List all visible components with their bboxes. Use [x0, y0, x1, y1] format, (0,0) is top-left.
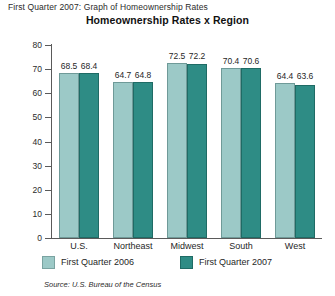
bar [79, 73, 99, 238]
legend-label: First Quarter 2007 [199, 258, 272, 267]
bar-pair [167, 45, 207, 238]
y-axis-tick-label: 70 [12, 65, 42, 74]
bar-value-label: 68.5 [59, 62, 79, 71]
bar-value-label: 72.5 [167, 52, 187, 61]
bar [221, 68, 241, 238]
bar-value-label: 70.6 [241, 57, 261, 66]
bar-value-label: 68.4 [79, 62, 99, 71]
y-axis-tick-label: 80 [12, 41, 42, 50]
x-axis-category-label: South [214, 242, 268, 251]
legend-swatch [180, 256, 193, 269]
x-axis-line [51, 238, 322, 239]
y-axis-tick [45, 93, 51, 94]
y-axis-tick-label: 20 [12, 186, 42, 195]
legend-item: First Quarter 2006 [42, 256, 134, 269]
bar [187, 64, 207, 238]
y-axis-tick [45, 190, 51, 191]
bar-group [59, 45, 99, 238]
y-axis-tick [45, 142, 51, 143]
y-axis-tick-label: 50 [12, 113, 42, 122]
y-axis-tick-label: 60 [12, 89, 42, 98]
bar [59, 73, 79, 238]
chart-legend: First Quarter 2006First Quarter 2007 [42, 256, 322, 272]
bars-container: 68.568.464.764.872.572.270.470.664.463.6 [52, 45, 322, 238]
bar-value-label: 63.6 [295, 72, 315, 81]
y-axis-tick [45, 214, 51, 215]
legend-label: First Quarter 2006 [61, 258, 134, 267]
legend-item: First Quarter 2007 [180, 256, 272, 269]
y-axis-tick-label: 0 [12, 234, 42, 243]
bar-value-label: 72.2 [187, 52, 207, 61]
bar-value-label: 64.7 [113, 71, 133, 80]
bar-pair [59, 45, 99, 238]
bar-group [167, 45, 207, 238]
bar-value-labels: 64.764.8 [113, 71, 153, 80]
y-axis-tick [45, 166, 51, 167]
x-axis-category-label: West [268, 242, 322, 251]
bar-value-labels: 70.470.6 [221, 57, 261, 66]
y-axis-tick [45, 238, 51, 239]
y-axis-tick [45, 69, 51, 70]
x-axis-category-label: Midwest [160, 242, 214, 251]
y-axis-tick [45, 45, 51, 46]
chart-plot: Percent 01020304050607080 68.568.464.764… [0, 0, 335, 296]
y-axis-tick-label: 30 [12, 162, 42, 171]
bar [167, 63, 187, 238]
bar [275, 83, 295, 238]
bar [241, 68, 261, 238]
bar-value-label: 64.8 [133, 71, 153, 80]
bar-value-label: 70.4 [221, 57, 241, 66]
y-axis-tick [45, 117, 51, 118]
bar-value-labels: 64.463.6 [275, 72, 315, 81]
bar [133, 82, 153, 238]
bar-value-labels: 72.572.2 [167, 52, 207, 61]
bar [295, 85, 315, 238]
y-axis-tick-label: 10 [12, 210, 42, 219]
x-axis-category-label: Northeast [106, 242, 160, 251]
bar [113, 82, 133, 238]
bar-group [221, 45, 261, 238]
legend-swatch [42, 256, 55, 269]
y-axis-tick-label: 40 [12, 138, 42, 147]
source-note: Source: U.S. Bureau of the Census [44, 280, 161, 289]
x-axis-category-label: U.S. [52, 242, 106, 251]
bar-pair [221, 45, 261, 238]
bar-value-label: 64.4 [275, 72, 295, 81]
bar-value-labels: 68.568.4 [59, 62, 99, 71]
